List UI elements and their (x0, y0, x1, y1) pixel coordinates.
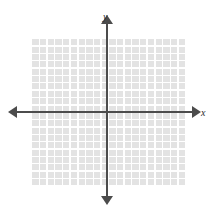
y-axis-down-arrowhead-icon (101, 196, 113, 205)
x-axis-right-arrowhead-icon (192, 106, 201, 118)
y-axis-label: y (103, 12, 107, 22)
y-axis-line (106, 23, 108, 198)
coordinate-plane-figure: x y (0, 0, 211, 211)
x-axis-left-arrowhead-icon (8, 106, 17, 118)
x-axis-line (14, 111, 194, 113)
x-axis-label: x (201, 108, 205, 118)
